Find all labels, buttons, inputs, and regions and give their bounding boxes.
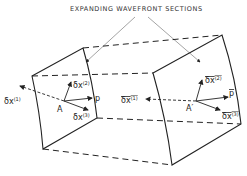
label-dx1-left: δx(1) [4, 96, 21, 106]
right-wavefront-section [153, 35, 241, 165]
label-dx2-right: δx(2) [205, 75, 222, 85]
label-dx3-left: δx(3) [73, 112, 90, 122]
label-p-left: p [95, 94, 100, 103]
label-p-right: p [229, 89, 234, 98]
wavefront-diagram: EXPANDING WAVEFRONT SECTIONS δx(1) δx(2)… [0, 0, 247, 176]
label-A-prime: A′ [186, 104, 193, 113]
diagram-title: EXPANDING WAVEFRONT SECTIONS [70, 5, 203, 13]
label-dx1-right: δx(1) [121, 95, 138, 105]
label-dx3-right: δx(3) [222, 111, 239, 121]
pointer-line-left [86, 17, 135, 62]
label-dx2-left: δx(2) [73, 80, 90, 90]
label-A: A [57, 105, 63, 114]
